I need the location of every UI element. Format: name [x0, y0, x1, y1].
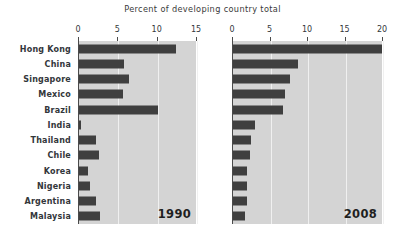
bar	[79, 120, 81, 129]
category-label: Singapore	[23, 75, 71, 84]
bar	[233, 90, 285, 99]
tick-label: 10	[302, 25, 312, 34]
category-label: India	[47, 120, 71, 129]
tick-label: 0	[75, 25, 80, 34]
bar	[79, 212, 100, 221]
figure: Percent of developing country total Hong…	[0, 0, 405, 239]
gridline	[197, 41, 198, 224]
category-label: Chile	[48, 151, 71, 160]
tick-label: 20	[377, 25, 387, 34]
bar	[79, 151, 99, 160]
bar	[233, 120, 255, 129]
category-label: Nigeria	[37, 181, 71, 190]
x-axis-2008: 05101520	[232, 26, 382, 41]
bar	[79, 59, 124, 68]
bar	[233, 212, 245, 221]
x-axis-1990: 051015	[78, 26, 196, 41]
bar	[233, 166, 247, 175]
bar	[79, 44, 176, 53]
bar	[79, 166, 88, 175]
category-label: Hong Kong	[20, 44, 71, 53]
bar	[233, 75, 290, 84]
bar	[233, 105, 283, 114]
category-label: Argentina	[25, 197, 71, 206]
gridline	[308, 41, 309, 224]
bar	[79, 197, 96, 206]
year-stamp-1990: 1990	[158, 207, 191, 221]
bar	[233, 136, 251, 145]
tick-label: 15	[339, 25, 349, 34]
plot-panel-2008: 2008	[232, 41, 382, 224]
tick-label: 0	[229, 25, 234, 34]
chart-title: Percent of developing country total	[0, 4, 405, 14]
bar	[79, 181, 90, 190]
category-label: Thailand	[31, 136, 71, 145]
category-label: Brazil	[44, 105, 71, 114]
bar	[233, 59, 298, 68]
bar	[79, 105, 158, 114]
tick-label: 5	[267, 25, 272, 34]
plot-area-1990	[79, 41, 196, 224]
bar	[79, 75, 129, 84]
plot-area-2008	[233, 41, 382, 224]
bar	[233, 44, 382, 53]
year-stamp-2008: 2008	[344, 207, 377, 221]
category-label: Korea	[44, 166, 71, 175]
category-label: Malaysia	[30, 212, 71, 221]
tick-label: 5	[115, 25, 120, 34]
gridline	[158, 41, 159, 224]
gridline	[271, 41, 272, 224]
bar	[79, 136, 96, 145]
category-label: China	[45, 59, 71, 68]
tick-label: 15	[191, 25, 201, 34]
tick-label: 10	[152, 25, 162, 34]
gridline	[118, 41, 119, 224]
plot-panel-1990: 1990	[78, 41, 196, 224]
bar	[233, 151, 250, 160]
bar	[233, 197, 247, 206]
category-axis: Hong KongChinaSingaporeMexicoBrazilIndia…	[0, 41, 74, 224]
gridline	[346, 41, 347, 224]
gridline	[383, 41, 384, 224]
bar	[233, 181, 247, 190]
category-label: Mexico	[38, 90, 71, 99]
bar	[79, 90, 123, 99]
